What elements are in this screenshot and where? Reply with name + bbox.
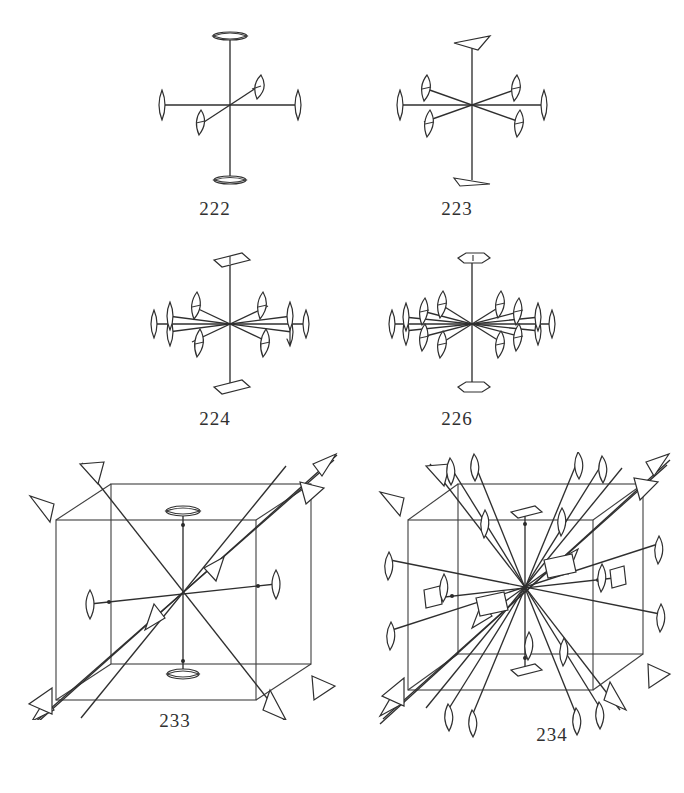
figure-222-label: 222	[100, 198, 330, 220]
axis-cross-226	[392, 258, 552, 384]
figure-234: 234	[352, 452, 672, 740]
figure-226-drawing	[372, 232, 602, 402]
axis-cross-222	[162, 36, 298, 180]
axis-cross-224	[154, 256, 306, 384]
figure-226: 226	[372, 232, 602, 402]
figure-sheet: 222	[0, 0, 684, 793]
figure-223-drawing	[372, 22, 602, 192]
figure-223: 223	[372, 22, 602, 192]
figure-233-drawing	[18, 452, 338, 720]
figure-224-label: 224	[100, 408, 330, 430]
figure-226-label: 226	[342, 408, 572, 430]
figure-234-label: 234	[392, 724, 684, 746]
figure-234-drawing	[352, 452, 672, 740]
figure-224: 224	[130, 232, 360, 402]
figure-224-drawing	[130, 232, 360, 402]
figure-222-drawing	[130, 22, 360, 192]
figure-233-label: 233	[15, 710, 335, 732]
figure-233: 233	[18, 452, 338, 720]
figure-223-label: 223	[342, 198, 572, 220]
figure-222: 222	[130, 22, 360, 192]
axis-cross-223	[400, 42, 544, 180]
